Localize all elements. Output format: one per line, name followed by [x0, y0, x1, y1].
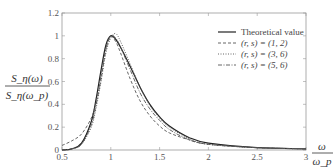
y-label-numerator: S_η(ω)	[11, 72, 43, 85]
y-tick-label: 0	[55, 145, 60, 155]
x-tick-label: 2	[206, 152, 211, 162]
y-tick-label: 0.4	[48, 99, 60, 109]
y-tick-label: 1	[55, 31, 60, 41]
y-tick-label: 1.2	[48, 8, 59, 18]
x-tick-label: 1.5	[154, 152, 166, 162]
spectrum-chart: 0.511.522.5300.20.40.60.811.2 Theoretica…	[0, 0, 335, 168]
legend-label: Theoretical value	[241, 27, 304, 37]
y-tick-label: 0.2	[48, 122, 59, 132]
x-tick-label: 1	[109, 152, 114, 162]
legend-label: (r, s) = (1, 2)	[241, 38, 288, 48]
x-label-denominator: ω_p	[313, 155, 332, 167]
x-tick-label: 3	[304, 152, 309, 162]
legend-label: (r, s) = (3, 6)	[241, 49, 288, 59]
x-tick-label: 2.5	[252, 152, 264, 162]
y-tick-label: 0.6	[48, 77, 60, 87]
y-tick-label: 0.8	[48, 54, 60, 64]
legend: Theoretical value(r, s) = (1, 2)(r, s) =…	[218, 27, 304, 70]
y-label-denominator: S_η(ω_p)	[6, 89, 49, 102]
x-label-numerator: ω	[318, 140, 326, 152]
legend-label: (r, s) = (5, 6)	[241, 60, 288, 70]
